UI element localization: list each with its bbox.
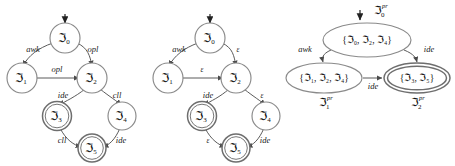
state-glyph-s4: ℑ <box>115 109 123 123</box>
state-glyph-s1: ℑ <box>161 71 169 85</box>
state-node-s1[interactable]: ℑ1 <box>7 63 37 93</box>
state-node-s2[interactable]: ℑ2 <box>221 63 251 93</box>
edge-label-s4-s5: ide <box>116 135 127 145</box>
edge-label-s2-s3: ide <box>203 90 214 100</box>
edge-label-s0-s2: opl <box>88 44 100 54</box>
edge-p0-p2 <box>404 50 417 62</box>
edge-label-s3-s5: ε <box>207 136 210 145</box>
state-sub-s5: 5 <box>93 148 97 156</box>
edge-label-s0-s2: ε <box>237 45 240 54</box>
edge-s0-s2 <box>222 43 236 66</box>
state-node-s4[interactable]: ℑ4 <box>108 102 136 130</box>
state-node-p0[interactable]: {ℑ₀, ℑ₂, ℑ₄} <box>323 23 411 57</box>
state-node-s3[interactable]: ℑ3 <box>188 102 217 131</box>
state-sub-s4: 4 <box>123 116 127 124</box>
state-sub-s2: 2 <box>93 78 97 86</box>
state-node-p1[interactable]: {ℑ₁, ℑ₂, ℑ₄} <box>286 63 362 93</box>
edge-label-s3-s5: cll <box>58 135 67 145</box>
state-glyph-s2: ℑ <box>85 71 93 85</box>
state-sub-s4: 4 <box>267 116 271 124</box>
state-node-s5[interactable]: ℑ5 <box>222 134 250 162</box>
state-set-label-p2: {ℑ₃, ℑ₅} <box>400 73 435 83</box>
state-sub-s5: 5 <box>237 148 241 156</box>
state-sub-s2: 2 <box>237 78 241 86</box>
state-node-s2[interactable]: ℑ2 <box>77 63 107 93</box>
edge-label-s2-s3: ide <box>58 90 69 100</box>
edge-label-s1-s2: ε <box>201 65 204 74</box>
state-node-s0[interactable]: ℑ0 <box>195 23 225 53</box>
outer-sub-p1: 1 <box>326 103 330 111</box>
edge-label-s2-s4: cll <box>113 90 122 100</box>
state-glyph-s0: ℑ <box>58 31 66 45</box>
outer-label-p1: ℑpr1 <box>319 94 333 110</box>
state-node-s0[interactable]: ℑ0 <box>50 23 80 53</box>
state-set-label-p1: {ℑ₁, ℑ₂, ℑ₄} <box>299 73 349 83</box>
state-sub-s3: 3 <box>203 116 207 124</box>
outer-sup-p0: pr <box>381 2 388 9</box>
state-node-s4[interactable]: ℑ4 <box>252 102 280 130</box>
panel-nfa-symbol-transitions: awk opl opl ide cll cll ide ℑ0 ℑ1 ℑ2 <box>0 0 150 166</box>
edge-label-s0-s1: awk <box>172 44 186 54</box>
state-glyph-s3: ℑ <box>195 109 203 123</box>
outer-sub-p0: 0 <box>381 11 385 19</box>
state-glyph-s4: ℑ <box>259 109 267 123</box>
state-node-s5[interactable]: ℑ5 <box>78 134 106 162</box>
edge-p0-p1 <box>323 50 331 62</box>
outer-label-p2: ℑpr2 <box>411 94 425 110</box>
state-glyph-s0: ℑ <box>203 31 211 45</box>
state-glyph-s2: ℑ <box>229 71 237 85</box>
state-sub-s1: 1 <box>23 78 27 86</box>
state-glyph-s1: ℑ <box>15 71 23 85</box>
edge-label-s2-s4: ε <box>261 91 264 100</box>
edge-label-p0-p2: ide <box>424 44 435 54</box>
panel-dfa-subset-construction: ℑpr0 awk ide ide {ℑ₀, ℑ₂, ℑ₄} {ℑ₁, ℑ₂, ℑ… <box>284 0 455 166</box>
state-glyph-s5: ℑ <box>229 141 237 155</box>
edge-label-p1-p2: ide <box>368 81 379 91</box>
outer-sup-p1: pr <box>326 94 333 101</box>
outer-sup-p2: pr <box>418 94 425 101</box>
edge-label-s0-s1: awk <box>26 44 40 54</box>
outer-label-p0: ℑpr0 <box>374 2 388 18</box>
state-sub-s3: 3 <box>58 116 62 124</box>
state-glyph-s5: ℑ <box>85 141 93 155</box>
edge-label-p0-p1: awk <box>298 44 312 54</box>
state-node-s3[interactable]: ℑ3 <box>43 102 72 131</box>
outer-sub-p2: 2 <box>418 103 422 111</box>
edge-label-s1-s2: opl <box>52 64 64 74</box>
state-sub-s0: 0 <box>66 38 70 46</box>
state-sub-s1: 1 <box>169 78 173 86</box>
state-set-label-p0: {ℑ₀, ℑ₂, ℑ₄} <box>342 35 392 45</box>
state-node-p2[interactable]: {ℑ₃, ℑ₅} <box>384 63 450 93</box>
panel-nfa-epsilon-transitions: awk ε ε ide ε ε ide ℑ0 ℑ1 ℑ2 <box>148 0 286 166</box>
figure-root: awk opl opl ide cll cll ide ℑ0 ℑ1 ℑ2 <box>0 0 455 166</box>
state-node-s1[interactable]: ℑ1 <box>153 63 183 93</box>
state-glyph-s3: ℑ <box>50 109 58 123</box>
edge-label-s4-s5: ide <box>260 135 271 145</box>
state-sub-s0: 0 <box>211 38 215 46</box>
